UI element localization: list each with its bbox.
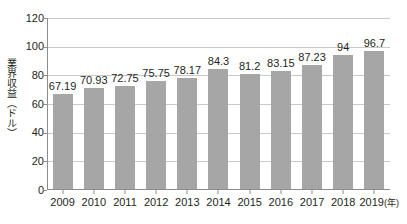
bar[interactable] — [84, 88, 104, 190]
bar-value-label: 67.19 — [49, 81, 77, 92]
x-axis-tick-mark — [124, 190, 125, 194]
bar-group[interactable]: 75.75 — [141, 18, 172, 190]
y-axis-tick-label: 120 — [18, 13, 44, 24]
bar-chart: 業界収益（ドル） 020406080100120 67.1970.9372.75… — [0, 0, 407, 224]
x-axis-tick-mark — [249, 190, 250, 194]
y-axis-tick-labels: 020406080100120 — [16, 0, 44, 224]
bar-group[interactable]: 67.19 — [47, 18, 78, 190]
bar[interactable] — [53, 94, 73, 190]
bar-group[interactable]: 84.3 — [203, 18, 234, 190]
bar[interactable] — [115, 86, 135, 190]
bar[interactable] — [146, 81, 166, 190]
x-axis-tick-mark — [156, 190, 157, 194]
x-axis-tick-mark — [218, 190, 219, 194]
x-axis-tick-mark — [312, 190, 313, 194]
x-axis-tick-label: 2018 — [331, 196, 355, 208]
y-axis-tick-label: 60 — [18, 99, 44, 110]
bar-value-label: 87.23 — [298, 52, 326, 63]
bar-group[interactable]: 83.15 — [265, 18, 296, 190]
bar-value-label: 75.75 — [142, 68, 170, 79]
bar-value-label: 94 — [337, 42, 349, 53]
x-axis-tick-mark — [280, 190, 281, 194]
x-axis-unit-label: (年) — [384, 198, 399, 208]
x-axis-tick-label: 2015 — [237, 196, 261, 208]
x-axis-tick-label: 2016 — [269, 196, 293, 208]
x-axis-tick-label: 2013 — [175, 196, 199, 208]
x-axis-tick-label: 2012 — [144, 196, 168, 208]
bar[interactable] — [364, 51, 384, 190]
y-axis-tick-label: 0 — [18, 185, 44, 196]
x-axis-tick-mark — [93, 190, 94, 194]
bar-group[interactable]: 96.7 — [359, 18, 390, 190]
bar-group[interactable]: 87.23 — [296, 18, 327, 190]
bar-group[interactable]: 81.2 — [234, 18, 265, 190]
y-axis-tick-label: 40 — [18, 127, 44, 138]
bar[interactable] — [177, 78, 197, 190]
x-axis-tick-mark — [374, 190, 375, 194]
bar[interactable] — [333, 55, 353, 190]
bar-value-label: 81.2 — [239, 61, 260, 72]
x-axis-tick-mark — [187, 190, 188, 194]
bar-group[interactable]: 72.75 — [109, 18, 140, 190]
bar-group[interactable]: 70.93 — [78, 18, 109, 190]
bar-value-label: 96.7 — [364, 38, 385, 49]
bar-group[interactable]: 94 — [328, 18, 359, 190]
bar-value-label: 83.15 — [267, 58, 295, 69]
y-axis-title: 業界収益（ドル） — [2, 58, 16, 138]
x-axis-tick-label: 2019(年) — [359, 196, 398, 209]
bar[interactable] — [208, 69, 228, 190]
y-axis-tick-label: 20 — [18, 156, 44, 167]
x-axis-tick-label: 2010 — [82, 196, 106, 208]
x-axis-tick-mark — [343, 190, 344, 194]
bar-value-label: 70.93 — [80, 75, 108, 86]
bar[interactable] — [240, 74, 260, 190]
bar[interactable] — [302, 65, 322, 190]
y-axis-tick-mark — [43, 190, 47, 191]
x-axis-tick-label: 2011 — [113, 196, 137, 208]
x-axis-line — [47, 189, 390, 190]
x-axis-tick-label: 2017 — [300, 196, 324, 208]
plot-area: 67.1970.9372.7575.7578.1784.381.283.1587… — [47, 18, 390, 190]
x-axis-tick-mark — [62, 190, 63, 194]
x-axis-tick-label: 2009 — [50, 196, 74, 208]
bar-value-label: 84.3 — [208, 56, 229, 67]
x-axis-tick-label: 2014 — [206, 196, 230, 208]
bar[interactable] — [271, 71, 291, 190]
y-axis-tick-label: 100 — [18, 41, 44, 52]
bar-value-label: 72.75 — [111, 73, 139, 84]
bar-value-label: 78.17 — [174, 65, 202, 76]
bars-layer: 67.1970.9372.7575.7578.1784.381.283.1587… — [47, 18, 390, 190]
bar-group[interactable]: 78.17 — [172, 18, 203, 190]
x-axis-tick-labels: 2009201020112012201320142015201620172018… — [47, 196, 390, 216]
y-axis-tick-label: 80 — [18, 70, 44, 81]
